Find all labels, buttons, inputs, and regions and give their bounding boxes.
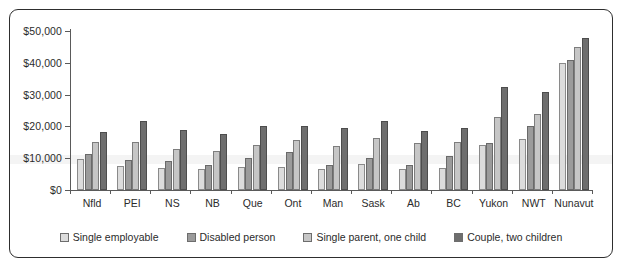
x-axis-tick — [311, 190, 312, 194]
legend-swatch-icon — [187, 233, 196, 242]
bar — [158, 168, 165, 190]
x-axis-label: Ab — [407, 197, 420, 209]
x-axis-tick — [271, 190, 272, 194]
y-axis-tick — [65, 158, 70, 159]
bar — [220, 134, 227, 190]
x-axis-tick — [231, 190, 232, 194]
legend-swatch-icon — [60, 233, 69, 242]
bar-group — [519, 31, 549, 190]
legend-item: Single parent, one child — [303, 231, 426, 243]
bar-group — [278, 31, 308, 190]
chart-legend: Single employableDisabled personSingle p… — [18, 228, 604, 246]
x-axis-tick — [552, 190, 553, 194]
legend-label: Disabled person — [200, 231, 276, 243]
x-axis-label: Nunavut — [554, 197, 593, 209]
y-axis-label: $20,000 — [23, 120, 62, 132]
bar — [559, 63, 566, 190]
x-axis-tick — [150, 190, 151, 194]
bar — [301, 126, 308, 190]
x-axis-tick — [190, 190, 191, 194]
bar-group — [399, 31, 429, 190]
bar — [567, 60, 574, 190]
bar — [534, 114, 541, 190]
y-axis-tick — [65, 126, 70, 127]
bar — [333, 146, 340, 190]
bar — [519, 139, 526, 190]
bar — [238, 167, 245, 190]
bar — [253, 145, 260, 190]
x-axis-tick — [351, 190, 352, 194]
bar — [132, 142, 139, 190]
bar — [278, 167, 285, 190]
bar — [479, 145, 486, 190]
x-axis-label: Que — [243, 197, 263, 209]
legend-swatch-icon — [303, 233, 312, 242]
bar — [213, 151, 220, 190]
bar — [286, 152, 293, 190]
bar — [421, 131, 428, 190]
bar — [486, 143, 493, 190]
legend-item: Single employable — [60, 231, 159, 243]
x-axis-label: Yukon — [479, 197, 508, 209]
y-axis-line — [70, 29, 71, 192]
bar — [260, 126, 267, 190]
bar-group — [479, 31, 509, 190]
bar — [173, 149, 180, 190]
x-axis-label: BC — [446, 197, 461, 209]
bar — [381, 121, 388, 190]
y-axis-label: $30,000 — [23, 89, 62, 101]
x-axis-label: NWT — [522, 197, 546, 209]
legend-label: Single employable — [73, 231, 159, 243]
x-axis-tick — [472, 190, 473, 194]
legend-label: Single parent, one child — [316, 231, 426, 243]
y-axis-label: $10,000 — [23, 152, 62, 164]
bar — [542, 92, 549, 190]
x-axis-tick — [431, 190, 432, 194]
x-axis-tick — [592, 190, 593, 194]
x-axis-label: Man — [323, 197, 343, 209]
x-axis-label: Ont — [284, 197, 301, 209]
bar — [92, 142, 99, 190]
x-axis-tick — [110, 190, 111, 194]
x-axis-label: Sask — [361, 197, 384, 209]
x-axis-tick — [512, 190, 513, 194]
bar — [100, 132, 107, 190]
bar — [454, 142, 461, 190]
bar — [85, 154, 92, 190]
y-axis-tick — [65, 31, 70, 32]
legend-item: Couple, two children — [454, 231, 562, 243]
bar — [326, 165, 333, 190]
bar — [117, 166, 124, 190]
bar — [494, 117, 501, 190]
bar — [461, 128, 468, 190]
legend-item: Disabled person — [187, 231, 276, 243]
bar — [373, 138, 380, 190]
legend-label: Couple, two children — [467, 231, 562, 243]
bar — [245, 158, 252, 190]
bar — [140, 121, 147, 190]
bar — [574, 47, 581, 190]
bar-group — [439, 31, 469, 190]
bar-group — [198, 31, 228, 190]
bar — [180, 130, 187, 190]
legend-swatch-icon — [454, 233, 463, 242]
bar — [341, 128, 348, 190]
x-axis-label: NS — [165, 197, 180, 209]
bar — [399, 169, 406, 190]
y-axis-label: $40,000 — [23, 57, 62, 69]
x-axis-label: PEI — [124, 197, 141, 209]
bar — [293, 140, 300, 190]
x-axis-line — [70, 190, 593, 191]
bar — [527, 126, 534, 190]
bar — [501, 87, 508, 190]
bar-group — [318, 31, 348, 190]
bar — [77, 159, 84, 190]
bar-group — [358, 31, 388, 190]
plot-area: $0$10,000$20,000$30,000$40,000$50,000 Nf… — [70, 31, 592, 190]
x-axis-label: Nfld — [83, 197, 102, 209]
bar — [446, 156, 453, 190]
bar-group — [158, 31, 188, 190]
bar — [358, 164, 365, 190]
bar-group — [117, 31, 147, 190]
welfare-income-bar-chart: $0$10,000$20,000$30,000$40,000$50,000 Nf… — [0, 0, 622, 271]
